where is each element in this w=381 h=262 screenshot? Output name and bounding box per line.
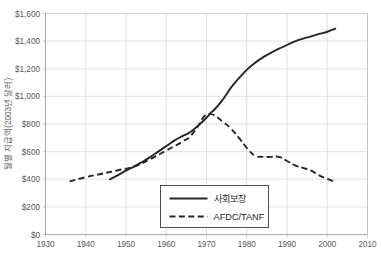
y-axis-tick-label: $1,000 xyxy=(15,92,40,101)
x-axis-tick-label: 1940 xyxy=(77,240,96,249)
y-axis-tick-label: $1,600 xyxy=(15,10,40,19)
y-axis-tick-label: $200 xyxy=(22,203,41,212)
x-axis-tick-label: 1950 xyxy=(117,240,136,249)
legend: 사회보장AFDC/TANF xyxy=(161,186,269,228)
y-axis-tick-label: $800 xyxy=(22,120,41,129)
x-axis-tick-label: 1990 xyxy=(278,240,297,249)
y-axis-tick-label: $1,400 xyxy=(15,37,40,46)
x-axis-tick-label: 1970 xyxy=(197,240,216,249)
x-axis-tick-labels: 193019401950196019701980199020002010 xyxy=(36,240,377,249)
x-axis-tick-label: 1960 xyxy=(157,240,176,249)
legend-label-1: 사회보장 xyxy=(214,194,247,204)
y-axis-title: 월별 지급액(2003년 달러) xyxy=(3,78,13,170)
y-axis-tick-label: $0 xyxy=(31,231,41,240)
y-axis-title-group: 월별 지급액(2003년 달러) xyxy=(3,78,13,170)
line-chart: $0$200$400$600$800$1,000$1,200$1,400$1,6… xyxy=(0,0,381,262)
y-axis-tick-label: $600 xyxy=(22,148,41,157)
x-axis-tick-label: 1980 xyxy=(238,240,257,249)
x-axis-tick-label: 2000 xyxy=(318,240,337,249)
legend-label-2: AFDC/TANF xyxy=(214,212,265,222)
y-axis-tick-label: $1,200 xyxy=(15,65,40,74)
chart-container: $0$200$400$600$800$1,000$1,200$1,400$1,6… xyxy=(0,0,381,262)
x-axis-tick-label: 1930 xyxy=(36,240,55,249)
x-axis-tick-label: 2010 xyxy=(358,240,377,249)
y-axis-tick-label: $400 xyxy=(22,175,41,184)
